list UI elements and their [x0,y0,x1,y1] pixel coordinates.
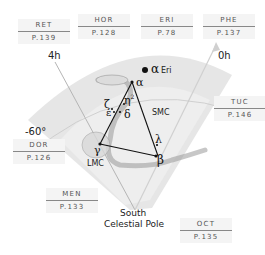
label-epsilon: ε [106,107,111,118]
ref-page: P.146 [214,109,265,121]
ra-label-4h: 4h [48,50,61,61]
ref-abbr: DOR [13,139,65,152]
ra-label-0h: 0h [218,50,231,61]
pole-label-line2: Celestial Pole [104,219,164,229]
label-alpha-eri-symbol: α [151,62,159,76]
declination-label: -60° [25,126,46,137]
star-zeta [111,108,113,110]
ref-abbr: ERI [141,14,193,27]
ref-hor[interactable]: HOR P.128 [78,14,130,39]
ref-dor[interactable]: DOR P.126 [13,139,65,164]
star-alpha [130,80,133,83]
ref-eri[interactable]: ERI P.78 [141,14,193,39]
star-epsilon [113,111,115,113]
ref-page: P.135 [180,231,232,243]
label-beta: β [157,153,164,167]
ref-tuc[interactable]: TUC P.146 [214,96,265,121]
ref-page: P.137 [203,27,255,39]
label-delta: δ [124,108,131,121]
ref-ret[interactable]: RET P.139 [18,19,70,44]
label-lambda: λ [155,133,162,146]
ref-abbr: OCT [180,218,232,231]
ref-abbr: TUC [214,96,265,109]
ref-abbr: PHE [203,14,255,27]
label-gamma: γ [94,144,101,157]
ref-page: P.78 [141,27,193,39]
eta-superscript: 2 [131,93,135,100]
label-alpha-eri-name: Eri [161,66,172,75]
ref-page: P.139 [18,32,70,44]
ref-abbr: HOR [78,14,130,27]
star-alpha-eri [142,67,148,73]
star-delta [119,111,121,113]
label-alpha: α [136,76,143,89]
ref-men[interactable]: MEN P.133 [46,188,98,213]
label-eta: η2 [124,93,134,107]
eta-symbol: η [124,94,131,107]
ref-abbr: RET [18,19,70,32]
label-lmc: LMC [87,159,104,168]
ref-abbr: MEN [46,188,98,201]
label-smc: SMC [152,108,170,117]
serpent-head [96,75,128,85]
ref-page: P.133 [46,201,98,213]
ref-oct[interactable]: OCT P.135 [180,218,232,243]
ref-page: P.128 [78,27,130,39]
ref-page: P.126 [13,152,65,164]
pole-label-line1: South [120,208,146,218]
ref-phe[interactable]: PHE P.137 [203,14,255,39]
